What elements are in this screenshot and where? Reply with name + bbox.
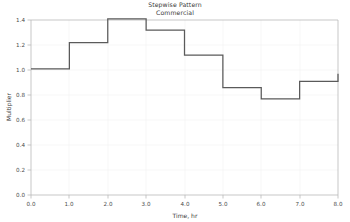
y-tick-label: 1.2 [16, 42, 25, 48]
x-tick-label: 4.0 [181, 201, 190, 207]
y-tick-labels: 0.0 0.2 0.4 0.6 0.8 1.0 1.2 1.4 [16, 17, 25, 198]
y-axis-ticks [28, 20, 32, 195]
x-tick-label: 3.0 [142, 201, 151, 207]
x-tick-label: 8.0 [334, 201, 343, 207]
y-tick-label: 0.4 [16, 142, 25, 148]
y-tick-label: 0.0 [16, 192, 25, 198]
x-tick-labels: 0.0 1.0 2.0 3.0 4.0 5.0 6.0 7.0 8.0 [27, 201, 343, 207]
chart-svg: 0.0 0.2 0.4 0.6 0.8 1.0 1.2 1.4 0.0 1.0 … [0, 0, 350, 222]
y-tick-label: 1.0 [16, 67, 25, 73]
x-axis-title: Time, hr [172, 212, 198, 219]
y-axis-title: Multiplier [5, 92, 13, 121]
x-tick-label: 7.0 [296, 201, 305, 207]
chart-figure: Stepwise Pattern Commercial [0, 0, 350, 222]
x-tick-label: 1.0 [65, 201, 74, 207]
y-tick-label: 0.6 [16, 117, 25, 123]
step-series-line [31, 19, 338, 99]
x-tick-label: 0.0 [27, 201, 36, 207]
x-axis-ticks [31, 195, 338, 199]
x-tick-label: 5.0 [219, 201, 228, 207]
plot-area: 0.0 0.2 0.4 0.6 0.8 1.0 1.2 1.4 0.0 1.0 … [0, 0, 350, 222]
y-tick-label: 1.4 [16, 17, 25, 23]
y-tick-label: 0.2 [16, 167, 25, 173]
x-tick-label: 6.0 [257, 201, 266, 207]
x-tick-label: 2.0 [104, 201, 113, 207]
y-tick-label: 0.8 [16, 92, 25, 98]
